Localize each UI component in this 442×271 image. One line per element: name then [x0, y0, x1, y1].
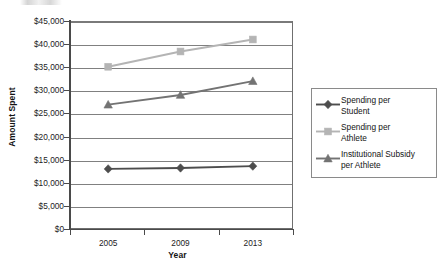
legend-entry[interactable]: Spending per Student: [315, 95, 432, 116]
x-axis-title: Year: [60, 250, 295, 260]
y-axis-tickmark: [64, 160, 70, 161]
legend: Spending per StudentSpending per Athlete…: [311, 88, 437, 178]
y-axis-tickmark: [64, 183, 70, 184]
y-axis-tickmark: [64, 206, 70, 207]
legend-key-diamond-icon: [315, 96, 341, 107]
legend-key-triangle-icon: [315, 150, 341, 161]
y-axis-tick-label: $25,000: [12, 108, 64, 118]
legend-entry[interactable]: Institutional Subsidy per Athlete: [315, 149, 432, 170]
x-axis-tickmark: [70, 229, 71, 235]
data-point-marker: [325, 128, 332, 135]
x-axis-tick-labels: 200520092013: [0, 234, 442, 248]
x-axis-tickmark: [293, 229, 294, 235]
data-point-marker: [177, 164, 185, 172]
x-axis-tick-label: 2013: [244, 238, 262, 248]
data-point-marker: [324, 100, 332, 108]
data-point-marker: [249, 162, 257, 170]
y-axis-tickmark: [64, 21, 70, 22]
y-axis-tick-label: $10,000: [12, 178, 64, 188]
series-layer: [70, 21, 293, 229]
y-axis-tick-label: $15,000: [12, 155, 64, 165]
y-axis-tick-label: $30,000: [12, 85, 64, 95]
y-axis-tickmark: [64, 137, 70, 138]
data-point-marker: [104, 165, 112, 173]
x-axis-line: [69, 229, 294, 230]
data-point-marker: [105, 63, 112, 70]
data-point-marker: [249, 36, 256, 43]
legend-label: Spending per Student: [341, 95, 390, 116]
x-axis-tick-label: 2005: [99, 238, 117, 248]
y-axis-tick-label: $5,000: [12, 201, 64, 211]
y-axis-tickmark: [64, 113, 70, 114]
y-axis-tick-label: $20,000: [12, 132, 64, 142]
y-axis-tick-label: $0: [12, 224, 64, 234]
y-axis-tickmark: [64, 67, 70, 68]
x-axis-tickmark: [219, 229, 220, 235]
x-axis-tickmark: [144, 229, 145, 235]
legend-entry[interactable]: Spending per Athlete: [315, 122, 432, 143]
y-axis-tickmark: [64, 90, 70, 91]
y-axis-tick-label: $35,000: [12, 62, 64, 72]
y-axis-tick-label: $45,000: [12, 16, 64, 26]
x-axis-tick-label: 2009: [171, 238, 189, 248]
y-axis-tick-labels: $0$5,000$10,000$15,000$20,000$25,000$30,…: [12, 0, 64, 271]
y-axis-tick-label: $40,000: [12, 39, 64, 49]
line-chart: Amount Spent $0$5,000$10,000$15,000$20,0…: [0, 0, 442, 271]
legend-label: Spending per Athlete: [341, 122, 390, 143]
y-axis-tickmark: [64, 44, 70, 45]
legend-label: Institutional Subsidy per Athlete: [341, 149, 415, 170]
data-point-marker: [177, 48, 184, 55]
legend-key-square-icon: [315, 123, 341, 134]
